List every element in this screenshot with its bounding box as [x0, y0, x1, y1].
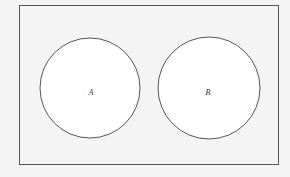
set-b-label: B	[206, 88, 211, 97]
venn-diagram	[0, 0, 290, 177]
set-a-label: A	[89, 88, 94, 97]
